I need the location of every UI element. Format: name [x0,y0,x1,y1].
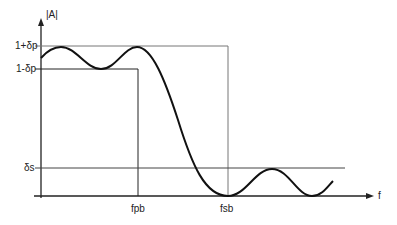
passband-edge-label: fpb [131,204,145,214]
x-axis-label: f [378,191,381,201]
filter-spec-diagram [0,0,397,225]
x-axis [34,193,374,199]
stopband-label: δs [24,163,35,173]
upper-passband-label: 1+δp [15,41,38,51]
y-axis [38,18,44,198]
y-axis-label: |A| [46,10,58,20]
lower-passband-label: 1-δp [16,64,36,74]
stopband-edge-label: fsb [220,204,233,214]
